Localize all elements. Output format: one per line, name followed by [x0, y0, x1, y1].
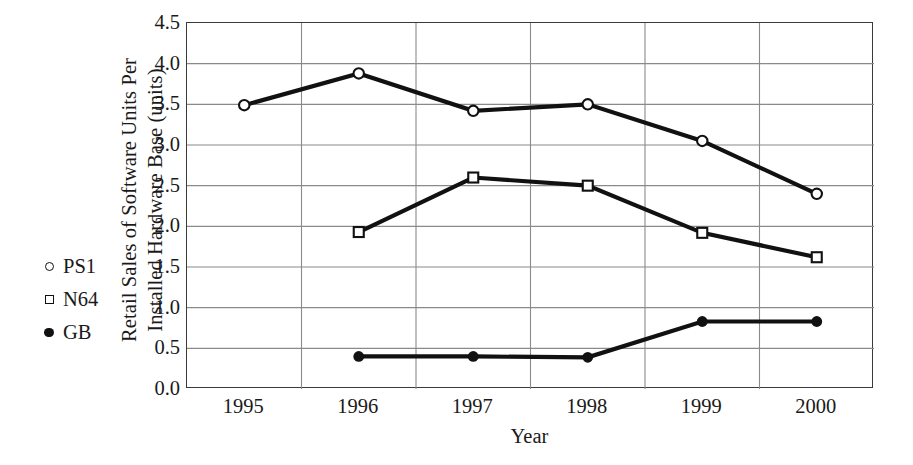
x-tick-label: 1995	[186, 394, 301, 422]
data-point-marker	[812, 252, 822, 262]
y-tick-label: 3.0	[128, 134, 180, 155]
gridlines	[187, 23, 874, 389]
data-point-marker	[239, 100, 249, 110]
plot-area	[186, 22, 873, 388]
y-tick-label: 3.5	[128, 93, 180, 114]
legend-label: PS1	[63, 256, 96, 277]
x-axis-tick-labels: 199519961997199819992000	[186, 394, 873, 422]
data-point-marker	[468, 173, 478, 183]
y-axis-tick-labels: 0.00.51.01.52.02.53.03.54.04.5	[128, 0, 180, 465]
series-gb	[353, 316, 822, 363]
data-point-marker	[812, 189, 822, 199]
y-tick-label: 0.0	[128, 378, 180, 399]
y-tick-label: 2.0	[128, 215, 180, 236]
data-point-marker	[811, 316, 822, 327]
data-point-marker	[353, 351, 364, 362]
data-point-marker	[697, 228, 707, 238]
legend: PS1N64GB	[38, 250, 156, 349]
data-point-marker	[583, 99, 593, 109]
y-tick-label: 4.5	[128, 12, 180, 33]
data-point-marker	[582, 352, 593, 363]
data-point-marker	[468, 106, 478, 116]
marker-glyph	[45, 262, 54, 271]
legend-label: N64	[63, 289, 98, 310]
y-tick-label: 4.0	[128, 52, 180, 73]
data-point-marker	[354, 227, 364, 237]
legend-label: GB	[63, 322, 91, 343]
marker-glyph	[45, 295, 54, 304]
open-circle-marker-icon	[38, 256, 60, 278]
data-point-marker	[354, 68, 364, 78]
data-point-marker	[697, 316, 708, 327]
filled-circle-marker-icon	[38, 322, 60, 344]
y-tick-label: 2.5	[128, 174, 180, 195]
data-point-marker	[468, 351, 479, 362]
plot-canvas	[187, 23, 874, 389]
x-tick-label: 1996	[301, 394, 416, 422]
legend-item-gb[interactable]: GB	[38, 316, 156, 349]
open-square-marker-icon	[38, 289, 60, 311]
line-chart: Retail Sales of Software Units Per Insta…	[0, 0, 913, 465]
x-tick-label: 1997	[415, 394, 530, 422]
legend-item-ps1[interactable]: PS1	[38, 250, 156, 283]
marker-glyph	[44, 328, 54, 338]
x-tick-label: 1999	[644, 394, 759, 422]
data-point-marker	[697, 136, 707, 146]
x-tick-label: 1998	[530, 394, 645, 422]
legend-item-n64[interactable]: N64	[38, 283, 156, 316]
x-axis-title: Year	[186, 424, 873, 448]
data-point-marker	[583, 181, 593, 191]
x-tick-label: 2000	[759, 394, 874, 422]
